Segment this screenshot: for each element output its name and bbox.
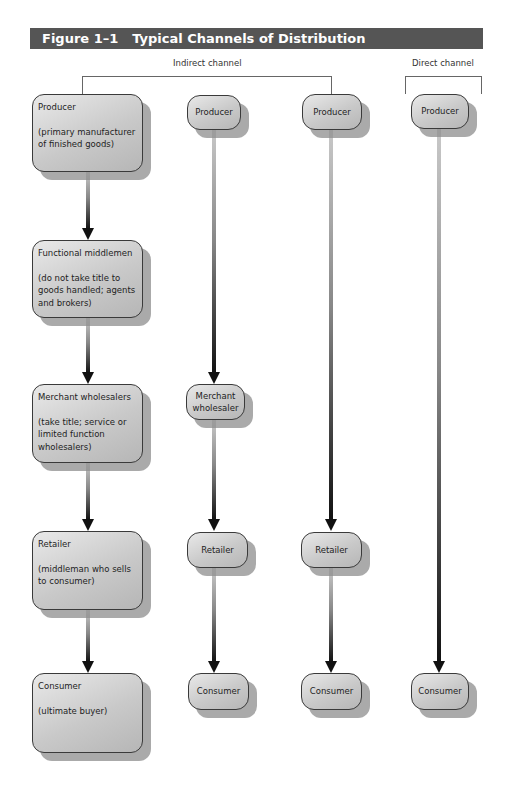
figure-title: Typical Channels of Distribution — [132, 31, 365, 46]
col2-arrow-2-shaft — [212, 420, 216, 520]
node-title: Consumer — [197, 685, 240, 698]
node-note: (take title; service or limited function… — [38, 417, 126, 452]
arrow-down-icon — [208, 661, 220, 673]
node-title: Consumer — [38, 680, 137, 693]
col2-consumer-box: Consumer — [188, 673, 249, 710]
node-title: Retailer — [315, 544, 348, 557]
arrow-down-icon — [82, 519, 94, 531]
col2-producer-box: Producer — [187, 95, 241, 130]
col2-arrow-1-shaft — [212, 130, 216, 373]
node-note: (primary manufacturer of finished goods) — [38, 127, 135, 150]
node-title: Producer — [313, 106, 351, 119]
col1-functional-middlemen-box: Functional middlemen (do not take title … — [32, 240, 143, 318]
col1-arrow-1-shaft — [86, 172, 90, 229]
col1-arrow-2-shaft — [86, 318, 90, 373]
node-title: Retailer — [201, 544, 234, 557]
col3-producer-box: Producer — [302, 94, 362, 130]
node-title: Functional middlemen — [38, 247, 137, 260]
node-title: Producer — [38, 101, 137, 114]
col2-arrow-3-shaft — [212, 568, 216, 662]
col4-producer-box: Producer — [411, 94, 469, 129]
node-title: Consumer — [310, 685, 353, 698]
node-title: Merchant wholesaler — [189, 390, 242, 415]
col3-arrow-2-shaft — [329, 568, 333, 662]
arrow-down-icon — [433, 661, 445, 673]
col2-retailer-box: Retailer — [187, 532, 248, 568]
node-note: (ultimate buyer) — [38, 706, 107, 716]
node-title: Merchant wholesalers — [38, 391, 137, 404]
col3-arrow-1-shaft — [329, 130, 333, 520]
col1-retailer-box: Retailer (middleman who sells to consume… — [32, 531, 143, 610]
indirect-channel-label: Indirect channel — [173, 58, 242, 68]
col1-producer-box: Producer (primary manufacturer of finish… — [32, 94, 143, 172]
node-note: (do not take title to goods handled; age… — [38, 273, 135, 308]
arrow-down-icon — [208, 519, 220, 531]
col3-retailer-box: Retailer — [301, 532, 362, 568]
figure-header: Figure 1–1Typical Channels of Distributi… — [30, 28, 483, 49]
node-title: Producer — [195, 106, 233, 119]
arrow-down-icon — [82, 372, 94, 384]
arrow-down-icon — [82, 228, 94, 240]
direct-channel-label: Direct channel — [412, 58, 474, 68]
col1-consumer-box: Consumer (ultimate buyer) — [32, 673, 143, 753]
indirect-channel-bracket — [82, 76, 332, 94]
col2-merchant-wholesaler-box: Merchant wholesaler — [186, 384, 245, 420]
arrow-down-icon — [82, 661, 94, 673]
direct-channel-bracket — [405, 76, 482, 94]
arrow-down-icon — [325, 519, 337, 531]
node-title: Retailer — [38, 538, 137, 551]
col3-consumer-box: Consumer — [301, 673, 362, 710]
node-title: Producer — [421, 105, 459, 118]
node-title: Consumer — [418, 685, 461, 698]
col4-arrow-1-shaft — [437, 129, 441, 662]
figure-number: Figure 1–1 — [42, 31, 118, 46]
node-note: (middleman who sells to consumer) — [38, 564, 131, 587]
arrow-down-icon — [325, 661, 337, 673]
col4-consumer-box: Consumer — [411, 673, 469, 710]
col1-merchant-wholesalers-box: Merchant wholesalers (take title; servic… — [32, 384, 143, 463]
col1-arrow-3-shaft — [86, 463, 90, 520]
arrow-down-icon — [208, 372, 220, 384]
